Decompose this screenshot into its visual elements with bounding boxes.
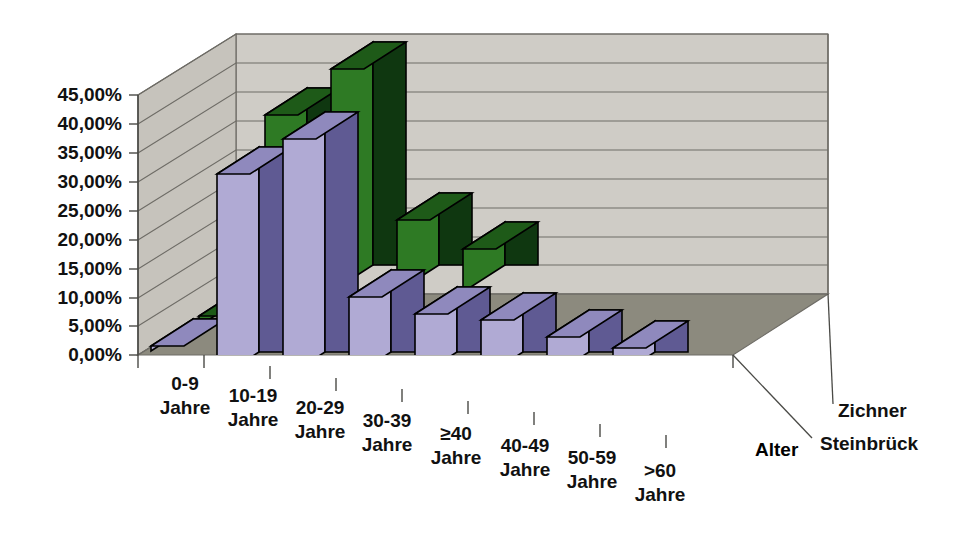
y-tick-label: 0,00% <box>68 344 122 365</box>
y-tick-label: 5,00% <box>68 315 122 336</box>
chart-3d-bar: 45,00% 40,00% 35,00% 30,00% 25,00% 20,00… <box>0 0 970 533</box>
series-label-steinbrueck: Steinbrück <box>820 433 919 454</box>
x-cat-line2: Jahre <box>362 434 413 455</box>
y-axis-labels: 45,00% 40,00% 35,00% 30,00% 25,00% 20,00… <box>58 84 123 365</box>
x-category-label-0-9: 0-9 Jahre <box>160 373 211 418</box>
x-category-label-40plus: ≥40 Jahre <box>431 423 482 468</box>
x-cat-line1: 40-49 <box>501 435 550 456</box>
series-depth-labels: Zichner Steinbrück <box>820 400 919 454</box>
x-cat-line2: Jahre <box>160 397 211 418</box>
series-label-zichner: Zichner <box>838 400 907 421</box>
y-tick-label: 45,00% <box>58 84 123 105</box>
y-tick-label: 40,00% <box>58 113 123 134</box>
x-category-label-10-19: 10-19 Jahre <box>228 385 279 430</box>
y-tick-label: 20,00% <box>58 229 123 250</box>
bar-steinbrueck-20-29 <box>283 112 358 379</box>
x-category-label-60plus: >60 Jahre <box>635 460 686 505</box>
x-cat-line2: Jahre <box>295 421 346 442</box>
x-cat-line1: >60 <box>644 460 676 481</box>
y-tick-marks <box>129 95 138 355</box>
bar-steinbrueck-10-19 <box>217 147 292 379</box>
x-cat-line2: Jahre <box>228 409 279 430</box>
x-cat-line2: Jahre <box>567 471 618 492</box>
x-cat-line2: Jahre <box>500 459 551 480</box>
x-axis-labels: 0-9 Jahre 10-19 Jahre 20-29 Jahre 30-39 … <box>160 373 686 505</box>
y-tick-label: 15,00% <box>58 258 123 279</box>
chart-svg: 45,00% 40,00% 35,00% 30,00% 25,00% 20,00… <box>0 0 970 533</box>
x-cat-line1: 10-19 <box>229 385 278 406</box>
y-tick-label: 30,00% <box>58 171 123 192</box>
x-tick-marks <box>138 355 733 448</box>
x-axis-title: Alter <box>755 439 799 460</box>
x-cat-line1: 20-29 <box>296 397 345 418</box>
x-cat-line2: Jahre <box>635 484 686 505</box>
x-cat-line1: 0-9 <box>171 373 198 394</box>
y-tick-label: 10,00% <box>58 287 123 308</box>
x-category-label-30-39: 30-39 Jahre <box>362 410 413 455</box>
x-category-label-20-29: 20-29 Jahre <box>295 397 346 442</box>
y-tick-label: 25,00% <box>58 200 123 221</box>
x-cat-line1: ≥40 <box>440 423 472 444</box>
x-cat-line1: 30-39 <box>363 410 412 431</box>
y-tick-label: 35,00% <box>58 142 123 163</box>
x-cat-line2: Jahre <box>431 447 482 468</box>
x-category-label-40-49: 40-49 Jahre <box>500 435 551 480</box>
x-category-label-50-59: 50-59 Jahre <box>567 447 618 492</box>
x-cat-line1: 50-59 <box>568 447 617 468</box>
